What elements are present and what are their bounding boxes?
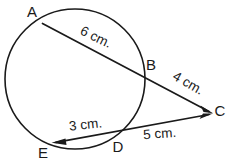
arrowhead-at-c-upper xyxy=(201,106,214,114)
arrowhead-at-e xyxy=(52,139,67,145)
length-label-ed: 3 cm. xyxy=(68,115,102,133)
point-label-b: B xyxy=(146,56,156,73)
point-label-e: E xyxy=(38,144,48,161)
geometry-canvas: A B C D E 6 cm. 4 cm. 3 cm. 5 cm. xyxy=(0,0,230,163)
point-label-c: C xyxy=(215,102,226,119)
geometry-figure: A B C D E 6 cm. 4 cm. 3 cm. 5 cm. xyxy=(0,0,230,163)
arrowhead-at-c-lower xyxy=(200,113,214,119)
secant-line-abc xyxy=(43,24,210,112)
point-label-d: D xyxy=(113,138,124,155)
length-label-ab: 6 cm. xyxy=(78,23,114,51)
length-label-dc: 5 cm. xyxy=(143,125,177,142)
point-label-a: A xyxy=(27,3,37,20)
